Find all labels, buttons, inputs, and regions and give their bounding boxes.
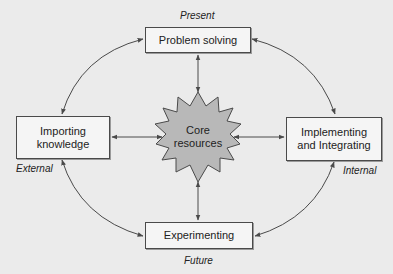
present-label: Present bbox=[180, 10, 214, 21]
experimenting-label: Experimenting bbox=[164, 229, 234, 242]
implementing-integrating-box: Implementing and Integrating bbox=[286, 117, 382, 161]
problem-solving-box: Problem solving bbox=[145, 27, 251, 53]
core-label-line1: Core bbox=[168, 124, 228, 137]
importing-label-line1: Importing bbox=[40, 125, 86, 138]
importing-knowledge-box: Importing knowledge bbox=[16, 116, 110, 159]
implementing-label-line2: and Integrating bbox=[297, 139, 370, 152]
experimenting-box: Experimenting bbox=[145, 222, 253, 249]
internal-label: Internal bbox=[343, 165, 376, 176]
core-resources-label: Core resources bbox=[168, 124, 228, 150]
importing-label-line2: knowledge bbox=[37, 138, 90, 151]
external-label: External bbox=[16, 163, 53, 174]
implementing-label-line1: Implementing bbox=[301, 126, 367, 139]
core-label-line2: resources bbox=[168, 137, 228, 150]
problem-solving-label: Problem solving bbox=[159, 34, 237, 47]
future-label: Future bbox=[184, 255, 213, 266]
